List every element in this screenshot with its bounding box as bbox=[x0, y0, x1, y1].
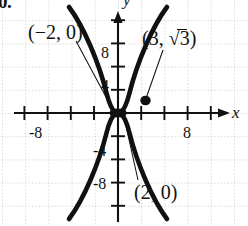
problem-number: 0. bbox=[0, 0, 11, 11]
annotation-right-vertex: (2, 0) bbox=[134, 182, 177, 202]
y-tick-label-neg4: -4 bbox=[93, 143, 106, 159]
y-tick-label-neg8: -8 bbox=[93, 176, 106, 192]
radical-sign: √3 bbox=[169, 28, 190, 48]
vertex-dot-right bbox=[116, 108, 126, 117]
annotation-marked-point-prefix: (3, bbox=[142, 27, 169, 49]
marked-point-dot bbox=[140, 96, 150, 106]
y-axis-label: y bbox=[123, 0, 131, 8]
annotation-marked-point-suffix: ) bbox=[190, 27, 197, 49]
annotation-marked-point: (3, √3) bbox=[142, 28, 196, 48]
x-tick-label-neg8: -8 bbox=[29, 125, 42, 141]
y-tick-label-4: 4 bbox=[101, 78, 109, 94]
y-tick-label-8: 8 bbox=[101, 45, 109, 61]
x-axis-label: x bbox=[232, 104, 240, 121]
x-tick-label-8: 8 bbox=[183, 125, 191, 141]
annotation-left-vertex: (−2, 0) bbox=[28, 22, 83, 42]
